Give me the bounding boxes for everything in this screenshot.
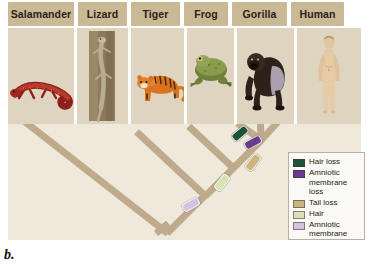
legend-box: Hair loss Amniotic membrane loss Tail lo… <box>288 152 365 240</box>
lizard-illustration <box>77 28 128 124</box>
tiger-illustration <box>131 28 184 124</box>
branch-amniote-stem <box>165 193 208 236</box>
taxa-photo-panel <box>8 28 361 124</box>
salamander-illustration <box>8 28 74 124</box>
legend-swatch-hair <box>293 211 305 219</box>
taxon-tab-label: Frog <box>194 8 218 20</box>
legend-label: Hair loss <box>309 157 340 167</box>
taxon-tab-label: Salamander <box>11 8 72 20</box>
taxon-photo-salamander <box>8 28 74 124</box>
taxon-tab-label: Human <box>299 8 335 20</box>
taxon-tab-gorilla[interactable]: Gorilla <box>232 2 287 26</box>
taxon-tab-lizard[interactable]: Lizard <box>78 2 127 26</box>
human-illustration <box>297 28 361 124</box>
branch-tiger <box>186 124 236 171</box>
gorilla-illustration <box>237 28 294 124</box>
legend-item-hair: Hair <box>293 209 360 219</box>
taxon-tab-label: Tiger <box>143 8 169 20</box>
legend-label: Hair <box>309 209 324 219</box>
legend-swatch-hair-loss <box>293 159 305 167</box>
cladogram-figure: Salamander Lizard Tiger Frog Gorilla Hum… <box>0 0 369 243</box>
legend-label: Amniotic membrane loss <box>309 168 347 197</box>
legend-swatch-amniotic-membrane-loss <box>293 170 305 178</box>
taxon-tab-frog[interactable]: Frog <box>184 2 228 26</box>
taxon-photo-frog <box>187 28 234 124</box>
taxon-photo-human <box>297 28 361 124</box>
taxon-tab-label: Lizard <box>87 8 119 20</box>
taxon-tab-salamander[interactable]: Salamander <box>8 2 74 26</box>
legend-swatch-amniotic-membrane <box>293 222 305 230</box>
legend-item-amniotic-membrane: Amniotic membrane <box>293 220 360 239</box>
legend-label: Amniotic membrane <box>309 220 347 239</box>
trait-marker-hair[interactable] <box>213 173 231 193</box>
frog-illustration <box>187 28 234 124</box>
figure-caption: b. <box>4 247 15 263</box>
legend-swatch-tail-loss <box>293 200 305 208</box>
legend-item-hair-loss: Hair loss <box>293 157 360 167</box>
taxon-tab-tiger[interactable]: Tiger <box>131 2 180 26</box>
taxon-tab-label: Gorilla <box>243 8 277 20</box>
taxon-photo-gorilla <box>237 28 294 124</box>
taxon-photo-lizard <box>77 28 128 124</box>
legend-label: Tail loss <box>309 198 337 208</box>
legend-item-tail-loss: Tail loss <box>293 198 360 208</box>
taxa-header-strip: Salamander Lizard Tiger Frog Gorilla Hum… <box>0 0 369 28</box>
taxon-tab-human[interactable]: Human <box>291 2 344 26</box>
taxon-photo-tiger <box>131 28 184 124</box>
legend-item-amniotic-membrane-loss: Amniotic membrane loss <box>293 168 360 197</box>
